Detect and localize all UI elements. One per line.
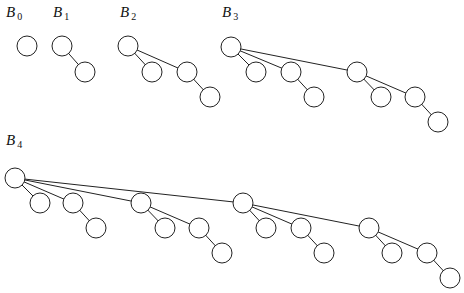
tree-node [86, 218, 106, 238]
tree-node [5, 168, 25, 188]
tree-label-letter: B [6, 132, 15, 148]
tree-node [155, 218, 175, 238]
tree-label-letter: B [120, 4, 129, 20]
tree-node [142, 62, 162, 82]
tree-label-letter: B [6, 4, 15, 20]
tree-label-subscript: 0 [17, 11, 22, 22]
tree-node [63, 193, 83, 213]
tree-node [17, 36, 37, 56]
tree-label-subscript: 1 [64, 11, 69, 22]
tree-node [440, 268, 460, 288]
tree-b3 [221, 37, 448, 132]
tree-node [256, 218, 276, 238]
tree-node [314, 243, 334, 263]
tree-label-subscript: 3 [233, 11, 238, 22]
tree-b0 [17, 36, 37, 56]
tree-node [52, 36, 72, 56]
tree-node [405, 87, 425, 107]
tree-label-b1: B1 [53, 4, 69, 22]
tree-node [428, 112, 448, 132]
tree-node [291, 218, 311, 238]
tree-label-b2: B2 [120, 4, 136, 22]
tree-node [417, 243, 437, 263]
tree-node [246, 62, 266, 82]
tree-node [118, 36, 138, 56]
tree-node [200, 87, 220, 107]
tree-node [347, 62, 367, 82]
tree-b1 [52, 36, 95, 82]
tree-label-subscript: 4 [17, 139, 22, 150]
tree-node [221, 37, 241, 57]
tree-node [371, 87, 391, 107]
tree-node [30, 193, 50, 213]
tree-node [177, 62, 197, 82]
tree-node [382, 243, 402, 263]
tree-node [304, 87, 324, 107]
tree-label-b4: B4 [6, 132, 22, 150]
tree-node [75, 62, 95, 82]
tree-b2 [118, 36, 220, 107]
tree-label-letter: B [53, 4, 62, 20]
tree-node [359, 218, 379, 238]
tree-node [281, 62, 301, 82]
tree-b4 [5, 168, 460, 288]
tree-label-b3: B3 [222, 4, 238, 22]
tree-label-letter: B [222, 4, 231, 20]
tree-node [131, 193, 151, 213]
tree-node [233, 193, 253, 213]
binomial-trees-diagram [0, 0, 464, 293]
tree-node [212, 243, 232, 263]
tree-label-b0: B0 [6, 4, 22, 22]
tree-label-subscript: 2 [131, 11, 136, 22]
tree-node [189, 218, 209, 238]
